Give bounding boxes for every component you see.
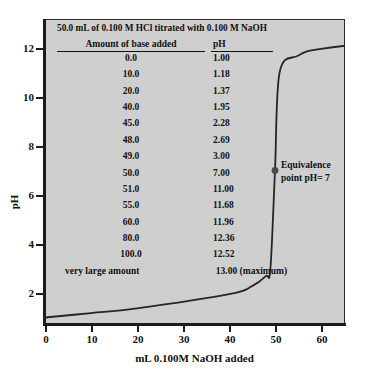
chart-title: 50.0 mL of 0.100 M HCl titrated with 0.1…: [57, 24, 297, 33]
cell-amount: 49.0: [57, 152, 205, 162]
x-tick-label-40: 40: [215, 333, 245, 345]
cell-amount: 20.0: [57, 87, 205, 97]
x-tick-label-60: 60: [307, 333, 337, 345]
table-body: 0.01.0010.01.1820.01.3740.01.9545.02.284…: [57, 54, 297, 283]
table-row: 50.07.00: [57, 169, 297, 185]
table-row: 48.02.69: [57, 136, 297, 152]
table-header-row: Amount of base added pH: [57, 40, 297, 52]
table-row: 40.01.95: [57, 103, 297, 119]
cell-amount: 51.0: [57, 185, 205, 195]
table-row: very large amount13.00 (maximum): [57, 267, 297, 283]
y-tick-label-8: 8: [0, 140, 34, 152]
cell-amount: 55.0: [57, 201, 205, 211]
cell-amount: 40.0: [57, 103, 205, 113]
x-tick-label-20: 20: [123, 333, 153, 345]
cell-ph: 1.95: [211, 103, 297, 113]
table-row: 0.01.00: [57, 54, 297, 70]
cell-ph: 1.37: [211, 87, 297, 97]
table-row: 51.011.00: [57, 185, 297, 201]
cell-ph: 12.36: [211, 234, 297, 244]
cell-ph: 11.96: [211, 218, 297, 228]
table-row: 100.012.52: [57, 250, 297, 266]
cell-amount: 60.0: [57, 218, 205, 228]
y-tick-label-2: 2: [0, 287, 34, 299]
y-axis-title: pH: [8, 182, 20, 222]
table-row: 49.03.00: [57, 152, 297, 168]
y-tick-label-4: 4: [0, 238, 34, 250]
table-row: 20.01.37: [57, 87, 297, 103]
cell-ph: 1.18: [211, 70, 297, 80]
cell-amount: very large amount: [57, 267, 208, 277]
cell-amount: 100.0: [57, 250, 205, 260]
cell-amount: 0.0: [57, 54, 205, 64]
x-tick-label-0: 0: [31, 333, 61, 345]
cell-amount: 80.0: [57, 234, 205, 244]
x-axis-title: mL 0.100M NaOH added: [43, 352, 346, 364]
table-row: 55.011.68: [57, 201, 297, 217]
cell-ph: 2.28: [211, 119, 297, 129]
y-tick-label-12: 12: [0, 42, 34, 54]
cell-ph: 3.00: [211, 152, 297, 162]
cell-ph: 7.00: [211, 169, 297, 179]
data-table-overlay: 50.0 mL of 0.100 M HCl titrated with 0.1…: [57, 24, 297, 283]
cell-amount: 10.0: [57, 70, 205, 80]
cell-ph: 13.00 (maximum): [214, 267, 297, 277]
x-tick-label-30: 30: [169, 333, 199, 345]
cell-amount: 48.0: [57, 136, 205, 146]
cell-ph: 2.69: [211, 136, 297, 146]
cell-ph: 12.52: [211, 250, 297, 260]
y-tick-label-10: 10: [0, 91, 34, 103]
cell-amount: 45.0: [57, 119, 205, 129]
x-tick-label-50: 50: [261, 333, 291, 345]
table-row: 60.011.96: [57, 218, 297, 234]
column-header-ph: pH: [211, 40, 273, 52]
column-header-amount: Amount of base added: [57, 40, 205, 52]
cell-amount: 50.0: [57, 169, 205, 179]
table-row: 80.012.36: [57, 234, 297, 250]
cell-ph: 1.00: [211, 54, 297, 64]
table-row: 10.01.18: [57, 70, 297, 86]
table-row: 45.02.28: [57, 119, 297, 135]
cell-ph: 11.00: [211, 185, 297, 195]
cell-ph: 11.68: [211, 201, 297, 211]
x-tick-label-10: 10: [77, 333, 107, 345]
titration-curve-figure: 12 10 8 6 4 2 pH 0 10 20 30 40 50 60 mL …: [0, 0, 366, 374]
